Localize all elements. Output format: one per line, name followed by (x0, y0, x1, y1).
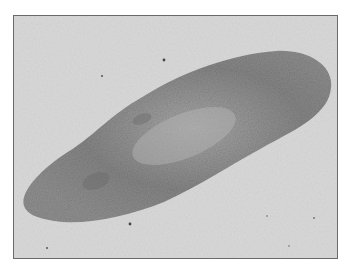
micrograph-frame (13, 15, 338, 259)
flatworm-micrograph (14, 16, 338, 259)
